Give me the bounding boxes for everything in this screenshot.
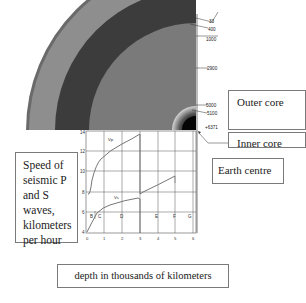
y-tick-6: 6	[82, 210, 85, 215]
depth-label-5100: 5100	[207, 111, 218, 116]
zone-E: E	[155, 214, 158, 219]
outer-core-label: Outer core	[228, 90, 306, 130]
y-axis-ticks: 14 12 10 8 6 4	[80, 130, 86, 235]
depth-label-33: 33	[209, 19, 215, 24]
vs-label: Vs	[114, 195, 119, 200]
x-axis-title: depth in thousands of kilometers	[57, 264, 229, 288]
y-tick-12: 12	[80, 149, 86, 154]
x-tick-0: 0	[86, 236, 89, 241]
earth-structure-diagram: 33 400 1000 2900 5000 5100 +6371	[0, 0, 306, 303]
x-tick-3: 3	[139, 236, 142, 241]
y-tick-4: 4	[82, 230, 85, 235]
depth-label-1000: 1000	[206, 37, 217, 42]
x-tick-5: 5	[174, 236, 177, 241]
depth-label-5000: 5000	[206, 103, 217, 108]
x-tick-6: 6	[192, 236, 195, 241]
x-tick-1: 1	[103, 236, 106, 241]
inner-core-label: Inner core	[228, 132, 306, 148]
depth-label-2900: 2900	[207, 66, 218, 71]
earth-centre-label: Earth centre	[212, 158, 284, 184]
y-axis-title: Speed of seismic P and S waves, kilomete…	[15, 152, 78, 243]
vp-label: Vp	[108, 137, 114, 142]
velocity-chart: 14 12 10 8 6 4 0 1 2 3 4 5 6 B C D	[80, 130, 196, 241]
x-axis-ticks: 0 1 2 3 4 5 6	[86, 236, 195, 241]
x-tick-4: 4	[157, 236, 160, 241]
y-tick-10: 10	[80, 169, 86, 174]
zone-F: F	[173, 214, 176, 219]
depth-label-6371: +6371	[205, 125, 218, 130]
zone-B: B	[90, 214, 93, 219]
x-tick-2: 2	[121, 236, 124, 241]
depth-label-400: 400	[208, 27, 216, 32]
zone-G: G	[188, 214, 192, 219]
y-tick-8: 8	[82, 190, 85, 195]
y-tick-14: 14	[80, 130, 86, 135]
